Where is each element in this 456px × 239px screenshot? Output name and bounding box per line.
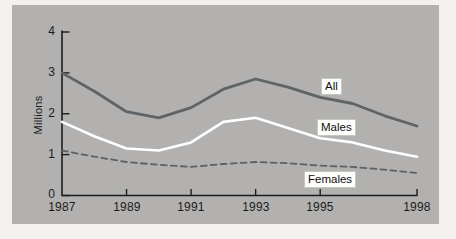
y-tick-label-4: 4 [37,25,55,38]
x-tick-label-1993: 1993 [238,201,274,214]
series-label-females: Females [304,171,356,188]
x-tick-label-1989: 1989 [109,201,145,214]
figure: Millions 4 3 2 1 0 1987 1989 1991 1993 1… [0,0,456,239]
y-tick-label-3: 3 [37,66,55,79]
series-label-males: Males [317,119,356,136]
x-tick-label-1995: 1995 [302,201,338,214]
series-label-all: All [321,78,342,95]
x-tick-label-1991: 1991 [173,201,209,214]
y-tick-label-2: 2 [37,107,55,120]
y-tick-label-1: 1 [37,148,55,161]
x-tick-label-1998: 1998 [399,201,435,214]
x-tick-label-1987: 1987 [44,201,80,214]
